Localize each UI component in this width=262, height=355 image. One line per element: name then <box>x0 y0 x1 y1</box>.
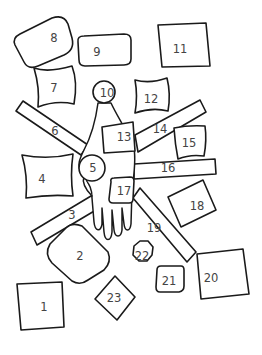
piece-17-label: 17 <box>117 184 132 198</box>
piece-21[interactable]: 21 <box>156 266 184 292</box>
piece-20[interactable]: 20 <box>197 249 249 299</box>
piece-13[interactable]: 13 <box>102 122 135 153</box>
piece-11[interactable]: 11 <box>158 23 210 67</box>
piece-22[interactable]: 22 <box>133 241 153 263</box>
piece-10[interactable]: 10 <box>93 81 115 103</box>
piece-23[interactable]: 23 <box>95 276 135 320</box>
piece-7[interactable]: 7 <box>34 66 76 107</box>
piece-5-label: 5 <box>89 161 96 175</box>
piece-12[interactable]: 12 <box>135 78 169 113</box>
piece-14-label: 14 <box>153 122 168 136</box>
piece-11-label: 11 <box>173 42 188 56</box>
piece-15[interactable]: 15 <box>174 126 206 159</box>
piece-7-label: 7 <box>50 81 57 95</box>
piece-8[interactable]: 8 <box>14 17 72 67</box>
piece-18-label: 18 <box>190 199 205 213</box>
piece-23-label: 23 <box>107 291 122 305</box>
piece-21-label: 21 <box>162 274 177 288</box>
puzzle-diagram: 6 14 16 3 19 10 13 5 17 8 <box>0 0 262 355</box>
piece-12-label: 12 <box>144 92 159 106</box>
piece-1-label: 1 <box>40 300 47 314</box>
piece-18[interactable]: 18 <box>168 180 216 227</box>
piece-4-label: 4 <box>38 172 45 186</box>
piece-1[interactable]: 1 <box>17 282 64 330</box>
piece-5[interactable]: 5 <box>79 155 105 181</box>
piece-9-label: 9 <box>93 45 100 59</box>
piece-20-label: 20 <box>204 271 219 285</box>
piece-13-label: 13 <box>117 130 132 144</box>
piece-22-label: 22 <box>135 249 150 263</box>
piece-19-label: 19 <box>147 221 162 235</box>
piece-9[interactable]: 9 <box>78 34 131 66</box>
piece-6-label: 6 <box>51 124 58 138</box>
piece-4[interactable]: 4 <box>22 154 73 198</box>
piece-2-label: 2 <box>76 249 83 263</box>
piece-3-label: 3 <box>68 208 75 222</box>
piece-6[interactable]: 6 <box>16 101 88 155</box>
piece-16-label: 16 <box>161 161 176 175</box>
piece-16[interactable]: 16 <box>134 159 216 179</box>
piece-8-label: 8 <box>50 31 57 45</box>
piece-10-label: 10 <box>100 86 115 100</box>
piece-15-label: 15 <box>182 136 197 150</box>
piece-17[interactable]: 17 <box>109 177 134 203</box>
